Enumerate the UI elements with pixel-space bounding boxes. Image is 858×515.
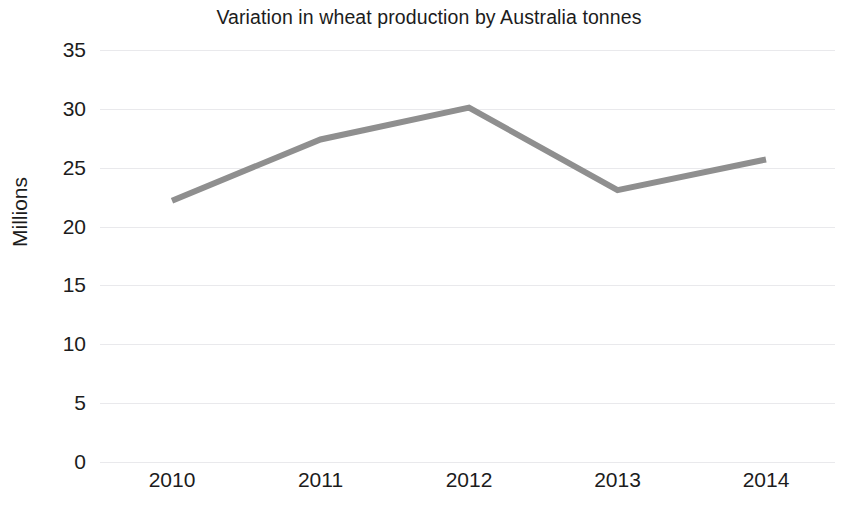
x-tick-label: 2014 xyxy=(706,468,826,492)
x-axis-tick-labels: 20102011201220132014 xyxy=(100,468,835,502)
y-tick-label: 5 xyxy=(22,391,86,415)
x-tick-label: 2011 xyxy=(261,468,381,492)
y-tick-label: 35 xyxy=(22,38,86,62)
y-tick-label: 25 xyxy=(22,156,86,180)
y-axis-tick-labels: 35302520151050 xyxy=(22,50,86,462)
line-chart: Variation in wheat production by Austral… xyxy=(0,0,858,515)
series-line-wheat-production xyxy=(100,50,835,462)
x-tick-label: 2010 xyxy=(112,468,232,492)
y-tick-label: 30 xyxy=(22,97,86,121)
chart-title: Variation in wheat production by Austral… xyxy=(0,6,858,29)
x-tick-label: 2012 xyxy=(409,468,529,492)
plot-area xyxy=(100,50,835,462)
x-tick-label: 2013 xyxy=(558,468,678,492)
gridline xyxy=(100,462,835,463)
y-tick-label: 10 xyxy=(22,332,86,356)
y-tick-label: 20 xyxy=(22,215,86,239)
y-tick-label: 15 xyxy=(22,273,86,297)
y-tick-label: 0 xyxy=(22,450,86,474)
